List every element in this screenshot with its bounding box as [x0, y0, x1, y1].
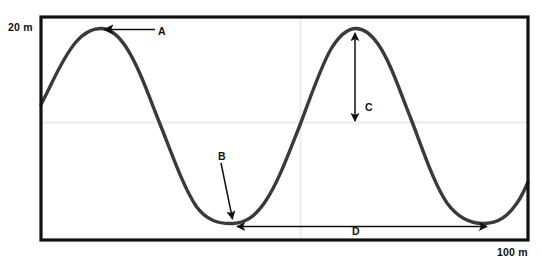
- axis-label-horizontal-scale: 100 m: [497, 246, 528, 258]
- plot-background: [41, 17, 528, 240]
- marker-label-c: C: [365, 101, 373, 113]
- wave-diagram-figure: 20 m 100 m A B C D: [0, 0, 542, 262]
- marker-label-d: D: [352, 225, 360, 237]
- marker-label-b: B: [218, 150, 226, 162]
- axis-label-vertical-scale: 20 m: [8, 21, 33, 33]
- wave-plot-svg: [0, 0, 542, 262]
- marker-label-a: A: [158, 25, 166, 37]
